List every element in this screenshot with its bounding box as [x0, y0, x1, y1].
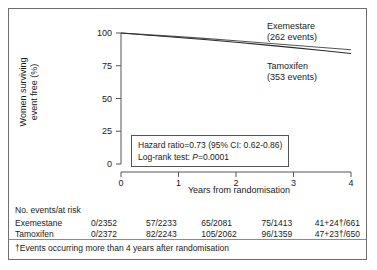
y-axis-title-line2: event free (%) — [29, 44, 40, 140]
figure-panel: 100 75 50 25 0 0 1 2 3 4 Women surviving… — [8, 8, 367, 260]
series-label-tamoxifen: Tamoxifen (353 events) — [267, 61, 317, 83]
series-events-exemestane: (262 events) — [267, 32, 317, 43]
series-events-tamoxifen: (353 events) — [267, 72, 317, 83]
x-axis-title: Years from randomisation — [119, 185, 359, 195]
y-tick-label-75: 75 — [94, 61, 112, 71]
risk-cell-exemestane-3: 75/1413 — [261, 218, 314, 230]
series-name-tamoxifen: Tamoxifen — [267, 61, 317, 72]
logrank-text: Log-rank test: P=0.0001 — [138, 151, 282, 163]
series-label-exemestane: Exemestare (262 events) — [267, 21, 317, 43]
statistics-box: Hazard ratio=0.73 (95% CI: 0.62-0.86) Lo… — [131, 135, 289, 167]
y-tick-label-50: 50 — [94, 94, 112, 104]
footnote-text: †Events occurring more than 4 years afte… — [15, 243, 229, 253]
footnote-divider — [9, 239, 366, 240]
risk-cell-exemestane-1: 57/2233 — [146, 218, 201, 230]
risk-row-label-exemestane: Exemestane — [15, 218, 91, 230]
y-tick-label-0: 0 — [94, 159, 112, 169]
logrank-prefix: Log-rank test: — [138, 152, 192, 162]
risk-cell-exemestane-2: 65/2081 — [201, 218, 261, 230]
y-tick-label-100: 100 — [94, 28, 112, 38]
y-axis-title-line1: Women surviving — [18, 44, 29, 140]
logrank-p-value: =0.0001 — [198, 152, 229, 162]
y-tick-label-25: 25 — [94, 126, 112, 136]
risk-table-title: No. events/at risk — [15, 205, 360, 217]
risk-cell-exemestane-0: 0/2352 — [91, 218, 146, 230]
risk-table-grid: Exemestane 0/2352 57/2233 65/2081 75/141… — [15, 218, 360, 241]
numbers-at-risk-table: No. events/at risk Exemestane 0/2352 57/… — [15, 205, 360, 241]
y-axis-title: Women surviving event free (%) — [18, 44, 40, 140]
risk-cell-exemestane-4: 41+24†/661 — [315, 218, 360, 230]
hazard-ratio-text: Hazard ratio=0.73 (95% CI: 0.62-0.86) — [138, 139, 282, 151]
series-name-exemestane: Exemestare — [267, 21, 317, 32]
table-row: Exemestane 0/2352 57/2233 65/2081 75/141… — [15, 218, 360, 230]
